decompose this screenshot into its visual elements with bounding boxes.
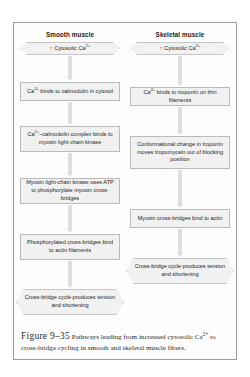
arrow-skeletal-3 [178, 170, 181, 204]
column-title-smooth-muscle: Smooth muscle [16, 31, 124, 38]
node-skeletal-step-3: Myosin cross-bridges bind to actin [130, 209, 230, 228]
node-skeletal-step-2: Conformational change in troponin moves … [130, 136, 230, 169]
node-smooth-start-label: ↑ Cytosolic Ca2+ [24, 45, 116, 53]
node-smooth-step-2-label: Ca2+–calmodulin complex binds to myosin … [24, 131, 116, 147]
node-smooth-step-4-label: Phosphorylated cross-bridges bind to act… [24, 239, 116, 255]
arrow-skeletal-4 [178, 229, 181, 253]
arrow-smooth-1 [68, 56, 71, 77]
arrow-skeletal-1 [178, 56, 181, 82]
node-smooth-step-1: Ca2+ binds to calmodulin in cytosol [20, 82, 120, 101]
figure-caption: Figure 9–35 Pathways leading from increa… [21, 329, 227, 354]
node-smooth-step-1-label: Ca2+ binds to calmodulin in cytosol [24, 88, 116, 96]
node-skeletal-step-1: Ca2+ binds to troponin on thin filaments [130, 87, 230, 106]
node-skeletal-step-1-label: Ca2+ binds to troponin on thin filaments [134, 89, 226, 105]
node-skeletal-end: Cross-bridge cycle produces tension and … [126, 258, 234, 284]
node-smooth-end: Cross-bridge cycle produces tension and … [16, 289, 124, 315]
arrow-smooth-4 [68, 205, 71, 229]
node-skeletal-end-label: Cross-bridge cycle produces tension and … [130, 263, 230, 279]
node-skeletal-start-label: ↑ Cytosolic Ca2+ [134, 45, 226, 53]
node-smooth-step-2: Ca2+–calmodulin complex binds to myosin … [20, 126, 120, 152]
figure-frame: Smooth muscle ↑ Cytosolic Ca2+ Ca2+ bind… [13, 22, 237, 360]
arrow-skeletal-2 [178, 107, 181, 131]
node-skeletal-step-3-label: Myosin cross-bridges bind to actin [134, 215, 226, 223]
arrow-smooth-2 [68, 102, 71, 121]
figure-number: Figure 9–35 [21, 331, 70, 341]
node-skeletal-start: ↑ Cytosolic Ca2+ [130, 42, 230, 55]
arrow-smooth-3 [68, 153, 71, 173]
column-title-skeletal-muscle: Skeletal muscle [126, 31, 234, 38]
node-skeletal-step-2-label: Conformational change in troponin moves … [134, 141, 226, 165]
node-smooth-end-label: Cross-bridge cycle produces tension and … [20, 294, 120, 310]
node-smooth-step-3: Myosin light-chain kinase uses ATP to ph… [20, 178, 120, 204]
node-smooth-start: ↑ Cytosolic Ca2+ [20, 42, 120, 55]
node-smooth-step-3-label: Myosin light-chain kinase uses ATP to ph… [24, 179, 116, 203]
node-smooth-step-4: Phosphorylated cross-bridges bind to act… [20, 234, 120, 260]
arrow-smooth-5 [68, 261, 71, 284]
